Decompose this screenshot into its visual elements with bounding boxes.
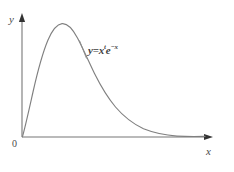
curve-equation-annotation: y=xte−x: [88, 45, 118, 56]
x-axis-arrowhead: [204, 134, 213, 140]
gamma-density-figure: y x 0 y=xte−x: [0, 0, 234, 172]
equation-exponent-minus-x: −x: [111, 43, 118, 51]
y-axis-arrowhead: [19, 13, 25, 22]
x-axis-label: x: [206, 146, 211, 157]
origin-label: 0: [12, 139, 17, 149]
plot-area: [0, 0, 234, 172]
density-curve: [22, 24, 205, 137]
annotation-leader-line: [80, 41, 87, 59]
y-axis-label: y: [9, 14, 14, 25]
